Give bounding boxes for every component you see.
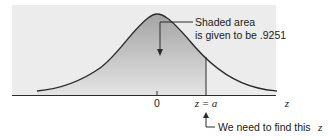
normal-distribution-diagram: Shaded area is given to be .9251 0 z = a… [0,0,328,140]
axis-label-z: z [284,97,290,109]
callout-find-z-text: We need to find this [218,121,311,133]
callout-shaded-line2: is given to be .9251 [195,29,286,41]
tick-zero-label: 0 [154,97,160,109]
callout-find-z-var: z [317,121,323,133]
callout-find-z: We need to find this z [218,117,323,134]
callout-shaded-line1: Shaded area [195,16,255,28]
tick-a-label: z = a [194,97,218,109]
find-z-leader-line [206,117,215,127]
up-arrow-icon [203,112,209,118]
